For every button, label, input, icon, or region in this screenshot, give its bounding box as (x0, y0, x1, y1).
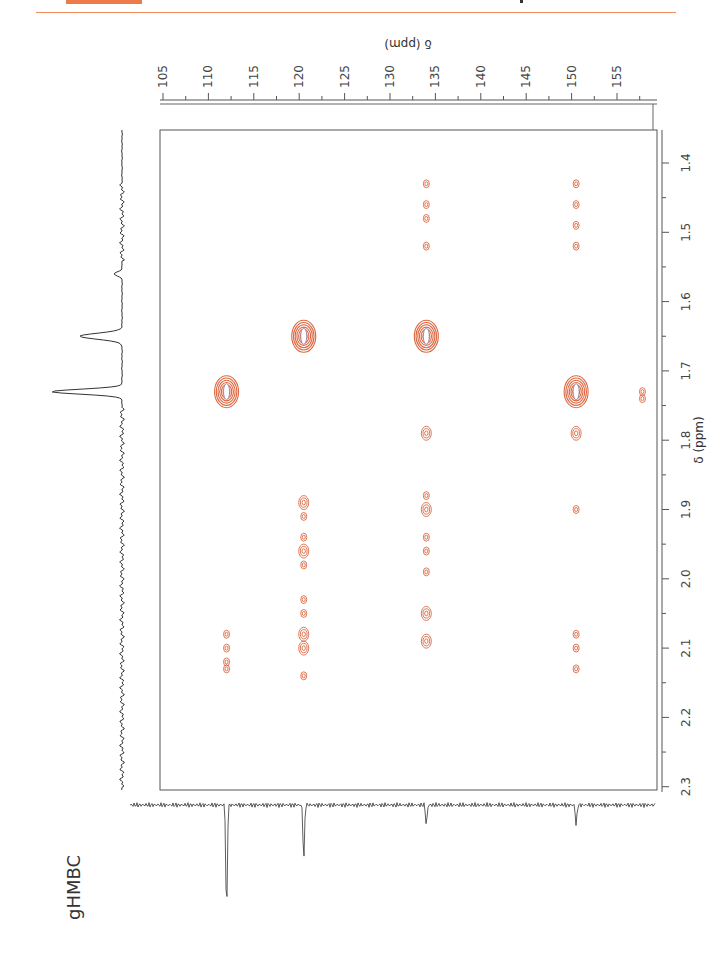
carbon-tick-label: 140 (474, 65, 488, 88)
carbon-axis: 105110115120125130135140145150155 δ (ppm… (156, 37, 657, 100)
proton-tick-label: 1.7 (679, 361, 693, 380)
proton-axis: 1.41.51.61.71.81.92.02.12.22.3 δ (ppm) (662, 130, 706, 796)
carbon-tick-label: 110 (201, 65, 215, 88)
proton-projection-spectrum (52, 130, 124, 790)
carbon-tick-label: 120 (292, 65, 306, 88)
proton-tick-label: 1.6 (679, 292, 693, 311)
proton-tick-label: 1.4 (679, 153, 693, 172)
carbon-tick-label: 135 (428, 65, 442, 88)
carbon-tick-label: 105 (156, 65, 170, 88)
carbon-projection-spectrum (130, 803, 655, 897)
proton-tick-label: 1.8 (679, 431, 693, 450)
carbon-tick-label: 130 (383, 65, 397, 88)
proton-tick-label: 2.2 (679, 708, 693, 727)
carbon-tick-label: 155 (610, 65, 624, 88)
cross-peaks (215, 180, 646, 680)
carbon-tick-label: 115 (247, 65, 261, 88)
proton-axis-title: δ (ppm) (692, 416, 706, 463)
carbon-tick-label: 145 (519, 65, 533, 88)
experiment-label: gHMBC (63, 855, 84, 920)
proton-tick-label: 1.5 (679, 223, 693, 242)
carbon-axis-title: δ (ppm) (384, 37, 431, 51)
proton-tick-label: 2.0 (679, 569, 693, 588)
carbon-tick-label: 125 (338, 65, 352, 88)
proton-tick-label: 1.9 (679, 500, 693, 519)
plot-frame (160, 130, 657, 790)
carbon-tick-label: 150 (565, 65, 579, 88)
hmbc-spectrum-chart: 105110115120125130135140145150155 δ (ppm… (0, 0, 723, 973)
proton-tick-label: 2.1 (679, 639, 693, 658)
proton-tick-label: 2.3 (679, 777, 693, 796)
